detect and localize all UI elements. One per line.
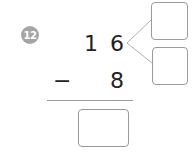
answer-line: [47, 100, 133, 101]
answer-box[interactable]: [78, 109, 129, 147]
minus-operator: −: [53, 70, 71, 92]
decompose-box-bottom[interactable]: [152, 47, 188, 85]
subtrahend-digit: 8: [110, 70, 124, 92]
decompose-box-top[interactable]: [151, 2, 188, 40]
